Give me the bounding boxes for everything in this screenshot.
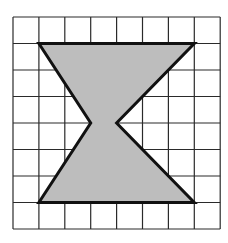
grid-figure [0,0,228,243]
